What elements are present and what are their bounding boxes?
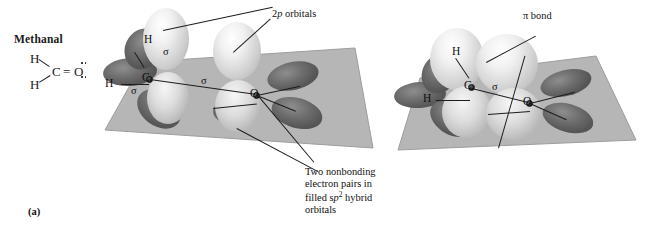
annotation-nonbonding-pairs: Two nonbonding electron pairs in filled … <box>305 166 376 216</box>
panel-caption-a: (a) <box>28 206 40 217</box>
sigma-label-h-upper-b: σ <box>163 47 169 58</box>
pi-lobe-top-right <box>476 34 538 94</box>
annotation-2p-orbitals: 2p orbitals <box>272 8 316 20</box>
atom-label-c-b: C <box>142 72 150 84</box>
annotation-nonbonding-line-3: filled sp2 hybrid <box>305 189 376 204</box>
annotation-nonbonding-line-2: electron pairs in <box>305 178 376 190</box>
lewis-structure: H H C = O <box>8 48 100 94</box>
methanal-orbital-figure: Methanal H H C = O (a) <box>0 0 649 232</box>
atom-label-o-b: O <box>250 88 258 100</box>
panel-a-lewis-structure: Methanal H H C = O (a) <box>0 0 100 232</box>
lone-pair-dot <box>85 62 87 64</box>
lone-pair-dot <box>81 62 83 64</box>
annotation-nonbonding-line-1: Two nonbonding <box>305 166 376 178</box>
pi-lobe-bottom-left <box>442 86 492 138</box>
sigma-label-h-left-b: σ <box>131 86 137 97</box>
lewis-atom-c: C <box>52 65 61 78</box>
annotation-pi-bond: π bond <box>523 10 552 22</box>
atom-label-o-c: O <box>523 96 531 108</box>
lewis-bond-h-c-bottom <box>39 75 51 83</box>
annotation-2p-suffix: orbitals <box>282 8 316 19</box>
nonbonding-hybrid-suffix: hybrid <box>342 193 372 204</box>
atom-label-h-upper-b: H <box>144 34 152 46</box>
atom-label-h-left-b: H <box>105 78 113 90</box>
nonbonding-sp-prefix: filled s <box>305 193 334 204</box>
sigma-label-co-b: σ <box>201 76 207 87</box>
lewis-atom-h-bottom: H <box>30 78 39 91</box>
lewis-bond-h-c-top <box>38 59 49 67</box>
lone-pair-dot <box>85 76 87 78</box>
p-orbital-o-top <box>213 22 261 80</box>
bond-h-c-left-c <box>436 100 470 101</box>
panel-c-orbital-diagram: H H C σ O (c) <box>390 0 649 200</box>
lone-pair-dot <box>81 76 83 78</box>
molecule-title: Methanal <box>14 33 63 45</box>
atom-label-h-upper-c: H <box>452 46 460 58</box>
lewis-double-bond: = <box>63 65 70 78</box>
atom-label-h-left-c: H <box>423 93 431 105</box>
atom-label-c-c: C <box>464 80 472 92</box>
sigma-label-co-c: σ <box>492 82 498 93</box>
annotation-nonbonding-line-4: orbitals <box>305 204 376 216</box>
